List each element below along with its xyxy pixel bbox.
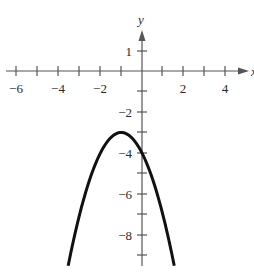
- y-tick-label: −6: [118, 187, 132, 202]
- y-tick-label: 1: [126, 44, 133, 59]
- x-tick-label: −4: [51, 81, 65, 96]
- x-tick-label: 4: [222, 81, 229, 96]
- y-axis-arrow-icon: [139, 30, 146, 41]
- y-tick-label: −4: [118, 146, 132, 161]
- y-tick-label: −8: [118, 228, 132, 243]
- x-tick-label: 2: [180, 81, 187, 96]
- chart: y x −6 −4 −2 2 4 1 −2 −4 −6 −8: [0, 0, 254, 277]
- x-axis-arrow-icon: [238, 68, 249, 75]
- x-tick-label: −2: [93, 81, 107, 96]
- x-axis-label: x: [250, 64, 254, 79]
- y-axis-label: y: [136, 12, 144, 27]
- y-tick-label: −2: [118, 105, 132, 120]
- x-tick-label: −6: [9, 81, 23, 96]
